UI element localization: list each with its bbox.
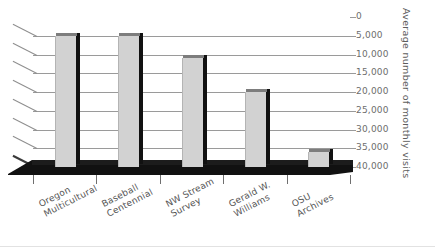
x-axis-category-label: Gerald W.Williams	[227, 179, 277, 219]
bar-top-face	[183, 55, 204, 58]
x-axis-tick	[96, 175, 97, 184]
bar-top-face	[309, 149, 330, 152]
gridline-depth-edge	[13, 61, 38, 74]
gridline-depth-edge	[13, 99, 38, 112]
bar-top-face	[246, 89, 267, 92]
x-axis-tick	[287, 175, 288, 184]
x-axis-category-label: NW StreamSurvey	[164, 176, 221, 220]
bar-front-face	[55, 36, 76, 167]
plot-area: 05,00010,00015,00020,00025,00030,00035,0…	[0, 0, 435, 252]
bottom-divider	[0, 246, 435, 247]
bar-front-face	[182, 58, 203, 167]
x-axis-tick	[160, 175, 161, 184]
gridline-depth-edge	[13, 117, 38, 130]
x-axis-tick	[33, 175, 34, 184]
gridline-depth-edge	[13, 80, 38, 93]
bar-chart: 05,00010,00015,00020,00025,00030,00035,0…	[0, 0, 435, 252]
x-axis-category-label: BaseballCentennial	[100, 177, 155, 220]
gridline	[33, 36, 350, 37]
bar	[55, 36, 75, 167]
bar-front-face	[308, 152, 329, 167]
bar-top-face	[56, 33, 77, 36]
bar-front-face	[245, 92, 266, 167]
bar	[182, 58, 202, 167]
y-axis-title: Average number of monthly visits	[396, 8, 412, 186]
bar	[308, 152, 328, 167]
gridline-depth-edge	[13, 42, 38, 55]
x-axis-category-label: OregonMulticultural	[37, 173, 99, 219]
bar-front-face	[118, 36, 139, 167]
x-axis-tick	[223, 175, 224, 184]
bar	[245, 92, 265, 167]
bar-top-face	[119, 33, 140, 36]
gridline-depth-edge	[13, 24, 38, 37]
bar	[118, 36, 138, 167]
x-axis-tick	[350, 175, 351, 184]
x-axis-category-label: OSUArchives	[290, 182, 336, 220]
gridline-depth-edge	[13, 136, 38, 149]
